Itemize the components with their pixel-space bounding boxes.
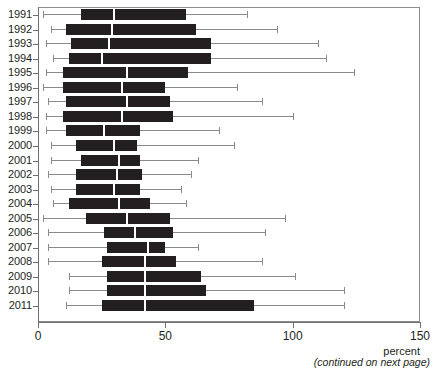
box-iqr: [76, 184, 140, 195]
upper-whisker: [211, 58, 326, 59]
lower-whisker: [69, 290, 107, 291]
upper-whisker-cap: [318, 40, 319, 47]
upper-whisker-cap: [247, 11, 248, 18]
lower-whisker: [51, 189, 76, 190]
x-tick-label-0: 0: [35, 330, 42, 343]
lower-whisker: [48, 232, 104, 233]
lower-whisker: [69, 276, 107, 277]
box-row: [0, 139, 436, 153]
upper-whisker: [176, 261, 263, 262]
upper-whisker-cap: [191, 171, 192, 178]
upper-whisker-cap: [344, 302, 345, 309]
lower-whisker-cap: [43, 215, 44, 222]
box-row: [0, 212, 436, 226]
upper-whisker-cap: [181, 186, 182, 193]
upper-whisker-cap: [285, 215, 286, 222]
upper-whisker-cap: [344, 287, 345, 294]
upper-whisker: [188, 72, 354, 73]
box-row: [0, 8, 436, 22]
box-iqr: [76, 169, 142, 180]
x-tick-150: [420, 322, 421, 328]
lower-whisker: [46, 43, 71, 44]
lower-whisker: [51, 29, 66, 30]
lower-whisker-cap: [53, 55, 54, 62]
lower-whisker-cap: [66, 302, 67, 309]
median-line: [113, 9, 115, 20]
lower-whisker: [51, 145, 76, 146]
lower-whisker: [51, 160, 82, 161]
box-iqr: [81, 155, 140, 166]
box-iqr: [66, 24, 196, 35]
lower-whisker: [53, 203, 68, 204]
median-line: [113, 140, 115, 151]
lower-whisker: [48, 261, 101, 262]
lower-whisker-cap: [48, 229, 49, 236]
upper-whisker: [140, 189, 181, 190]
upper-whisker-cap: [354, 69, 355, 76]
median-line: [103, 125, 105, 136]
upper-whisker-cap: [265, 229, 266, 236]
lower-whisker-cap: [51, 186, 52, 193]
upper-whisker: [254, 305, 343, 306]
lower-whisker-cap: [48, 98, 49, 105]
upper-whisker-cap: [262, 258, 263, 265]
upper-whisker: [150, 203, 186, 204]
lower-whisker: [53, 58, 68, 59]
box-row: [0, 66, 436, 80]
upper-whisker-cap: [219, 127, 220, 134]
box-iqr: [81, 9, 185, 20]
x-tick-100: [293, 322, 294, 328]
lower-whisker-cap: [69, 273, 70, 280]
lower-whisker: [48, 101, 66, 102]
upper-whisker-cap: [234, 142, 235, 149]
upper-whisker: [170, 101, 262, 102]
median-line: [144, 271, 146, 282]
median-line: [126, 213, 128, 224]
box-iqr: [102, 300, 255, 311]
x-tick-label-150: 150: [410, 330, 430, 343]
box-iqr: [66, 96, 170, 107]
upper-whisker: [206, 290, 344, 291]
box-iqr: [86, 213, 170, 224]
lower-whisker-cap: [48, 171, 49, 178]
box-iqr: [104, 227, 173, 238]
upper-whisker: [137, 145, 234, 146]
box-row: [0, 23, 436, 37]
median-line: [144, 300, 146, 311]
upper-whisker: [170, 218, 285, 219]
median-line: [126, 96, 128, 107]
lower-whisker-cap: [43, 84, 44, 91]
median-line: [147, 242, 149, 253]
box-iqr: [71, 38, 211, 49]
box-row: [0, 154, 436, 168]
median-line: [108, 38, 110, 49]
upper-whisker: [140, 130, 219, 131]
lower-whisker-cap: [51, 142, 52, 149]
lower-whisker-cap: [48, 258, 49, 265]
box-row: [0, 37, 436, 51]
continued-note: (continued on next page): [314, 357, 430, 368]
box-row: [0, 284, 436, 298]
box-plot-figure: 1991199219931994199519961997199819992000…: [0, 0, 436, 370]
box-row: [0, 270, 436, 284]
upper-whisker: [186, 14, 247, 15]
x-tick-label-50: 50: [159, 330, 172, 343]
box-iqr: [107, 285, 206, 296]
box-row: [0, 183, 436, 197]
lower-whisker-cap: [43, 11, 44, 18]
upper-whisker-cap: [326, 55, 327, 62]
lower-whisker: [66, 305, 102, 306]
lower-whisker-cap: [53, 200, 54, 207]
upper-whisker: [211, 43, 318, 44]
median-line: [134, 227, 136, 238]
upper-whisker-cap: [237, 84, 238, 91]
median-line: [118, 198, 120, 209]
lower-whisker-cap: [48, 244, 49, 251]
upper-whisker-cap: [262, 98, 263, 105]
lower-whisker-cap: [46, 69, 47, 76]
box-row: [0, 81, 436, 95]
lower-whisker: [46, 72, 64, 73]
upper-whisker-cap: [198, 244, 199, 251]
x-tick-0: [38, 322, 39, 328]
lower-whisker: [48, 174, 76, 175]
